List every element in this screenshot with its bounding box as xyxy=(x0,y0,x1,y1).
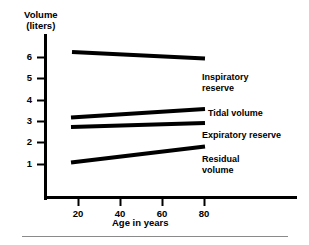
series-label-inspiratory-reserve: Inspiratory reserve xyxy=(202,72,249,94)
footer-divider xyxy=(22,236,288,237)
series-label-residual-volume-line2: volume xyxy=(202,165,234,175)
x-tick-label-60: 60 xyxy=(152,208,172,219)
series-label-expiratory-reserve: Expiratory reserve xyxy=(202,130,281,141)
x-tick-label-20: 20 xyxy=(68,208,88,219)
y-axis-title: Volume (liters) xyxy=(24,9,58,31)
y-tick-label-1: 1 xyxy=(18,158,32,169)
series-line-expiratory-reserve xyxy=(71,123,205,127)
series-label-residual-volume-line1: Residual xyxy=(202,154,240,164)
respiratory-volume-chart: Volume (liters) Age in years 6 5 4 3 2 1… xyxy=(0,0,309,245)
y-tick-label-2: 2 xyxy=(18,136,32,147)
x-tick-label-80: 80 xyxy=(194,208,214,219)
series-label-inspiratory-reserve-line2: reserve xyxy=(202,83,234,93)
series-label-inspiratory-reserve-line1: Inspiratory xyxy=(202,72,249,82)
y-tick-label-4: 4 xyxy=(18,94,32,105)
y-axis-title-line1: Volume xyxy=(24,9,58,20)
series-label-residual-volume: Residual volume xyxy=(202,154,240,176)
x-tick-label-40: 40 xyxy=(110,208,130,219)
series-label-tidal-volume: Tidal volume xyxy=(208,108,263,119)
y-tick-label-5: 5 xyxy=(18,72,32,83)
y-tick-label-3: 3 xyxy=(18,115,32,126)
series-line-tidal-volume xyxy=(71,109,205,118)
series-line-residual-volume xyxy=(71,147,205,163)
y-tick-label-6: 6 xyxy=(18,51,32,62)
series-line-inspiratory-reserve xyxy=(72,52,205,59)
y-axis-title-line2: (liters) xyxy=(24,20,58,31)
